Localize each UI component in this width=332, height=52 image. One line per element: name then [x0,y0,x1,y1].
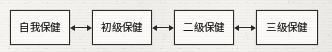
connector-line [239,27,251,28]
connector-line [75,27,87,28]
node-primary-care-label: 初级保健 [101,22,143,33]
node-self-care: 自我保健 [10,10,70,45]
node-self-care-label: 自我保健 [19,22,61,33]
node-secondary-care: 二级保健 [174,10,234,45]
double-arrow-icon-self-to-primary [70,23,92,32]
node-primary-care: 初级保健 [92,10,152,45]
double-arrow-icon-secondary-to-tertiary [234,23,256,32]
connector-line [157,27,169,28]
care-level-flow-diagram: 自我保健 初级保健 二级保健 三级保健 [0,0,332,52]
double-arrow-icon-primary-to-secondary [152,23,174,32]
node-secondary-care-label: 二级保健 [183,22,225,33]
node-tertiary-care-label: 三级保健 [266,22,308,33]
node-tertiary-care: 三级保健 [256,10,318,45]
